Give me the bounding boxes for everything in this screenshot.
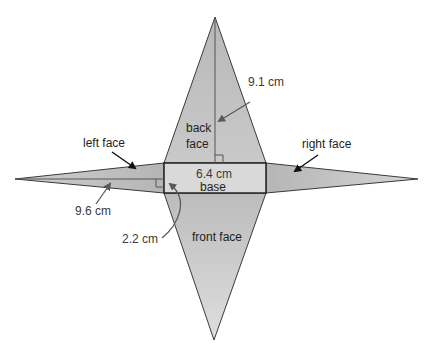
left-face-arrow <box>112 152 135 168</box>
back-height-label: 9.1 cm <box>248 75 284 89</box>
base-length-label: 6.4 cm <box>196 167 232 181</box>
front-face-label: front face <box>192 230 242 244</box>
back-face-label-line1: back <box>186 121 212 135</box>
left-face <box>15 163 164 193</box>
right-face-label: right face <box>302 137 352 151</box>
base-width-label: 2.2 cm <box>122 232 158 246</box>
right-face <box>266 163 418 193</box>
left-height-label: 9.6 cm <box>75 204 111 218</box>
back-face-label-line2: face <box>186 137 209 151</box>
left-face-label: left face <box>83 136 125 150</box>
pyramid-net-diagram: 9.1 cm back face 6.4 cm base left face r… <box>0 0 435 362</box>
base-label: base <box>200 180 226 194</box>
